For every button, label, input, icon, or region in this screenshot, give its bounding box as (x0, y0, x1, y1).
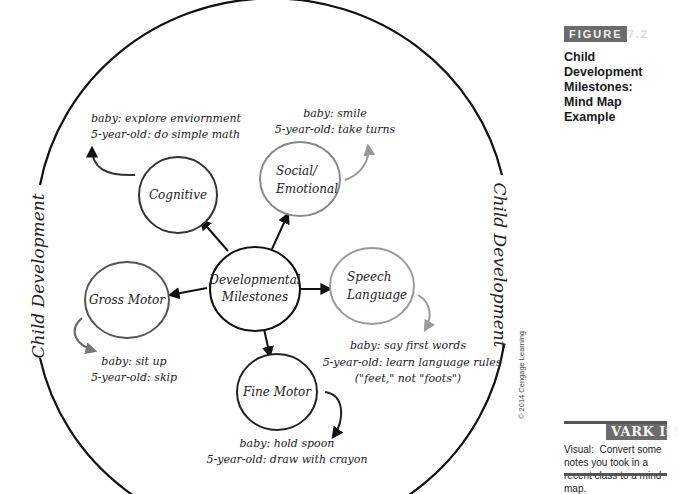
figure-number-badge: FIGURE 7.2 (564, 26, 627, 42)
vark-badge: VARK It! (606, 424, 667, 440)
center-node-line2: Milestones (221, 290, 288, 304)
node-label: Fine Motor (242, 385, 312, 399)
note-baby: baby: explore enviornment (91, 112, 242, 125)
figure-number: 7.2 (628, 28, 649, 40)
node-label-line1: Speech (347, 270, 392, 284)
node-fine-motor: Fine Motor baby: hold spoon 5-year-old: … (207, 354, 368, 466)
node-cognitive: Cognitive baby: explore enviornment 5-ye… (91, 112, 242, 233)
vark-bottom-rule (564, 473, 667, 476)
node-gross-motor: Gross Motor baby: sit up 5-year-old: ski… (85, 262, 177, 384)
note-five-year-old: 5-year-old: learn language rules (323, 356, 502, 369)
outer-ring-right-label: Child Development (490, 183, 510, 348)
note-five-year-old: 5-year-old: take turns (275, 123, 396, 136)
node-label: Gross Motor (89, 293, 166, 307)
node-label-line2: Emotional (275, 182, 338, 196)
mind-map-diagram: Child Development Child Development Deve… (0, 0, 560, 494)
center-node-line1: Developmental (208, 273, 301, 287)
note-five-year-old: 5-year-old: skip (91, 371, 177, 384)
figure-title: Child Development Milestones: Mind Map E… (564, 50, 664, 125)
vark-lead: Visual: (564, 444, 594, 455)
note-baby: baby: smile (303, 107, 367, 120)
outer-ring-left-label: Child Development (28, 193, 48, 358)
node-label: Cognitive (149, 188, 207, 202)
vark-activity: Visual: Convert some notes you took in a… (564, 443, 667, 494)
note-baby: baby: sit up (101, 355, 166, 368)
note-five-year-old: 5-year-old: do simple math (91, 128, 240, 141)
node-label-line1: Social/ (276, 164, 319, 178)
copyright-notice: © 2014 Cengage Learning (517, 329, 527, 421)
node-social-emotional: Social/ Emotional baby: smile 5-year-old… (260, 107, 396, 216)
note-baby: baby: say first words (350, 339, 466, 352)
note-baby: baby: hold spoon (240, 437, 335, 450)
node-label-line2: Language (346, 288, 407, 302)
note-five-year-old: 5-year-old: draw with crayon (207, 453, 368, 466)
figure-word: FIGURE (569, 28, 623, 40)
center-node-developmental-milestones: Developmental Milestones (208, 247, 301, 331)
node-speech-language: Speech Language baby: say first words 5-… (323, 248, 502, 385)
note-example: ("feet," not "foots") (355, 372, 461, 385)
